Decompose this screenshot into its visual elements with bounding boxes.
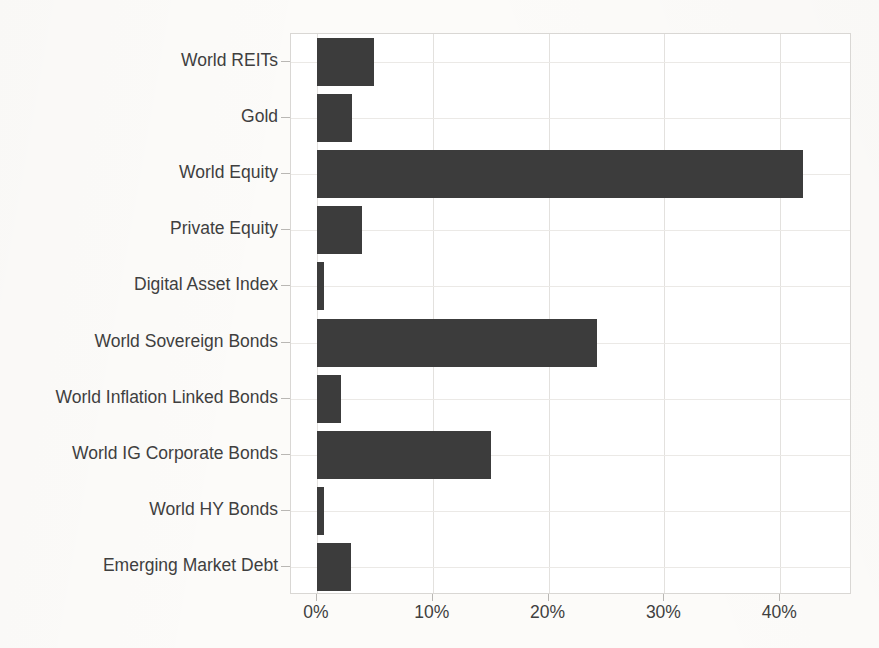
x-axis-tick-labels: 0%10%20%30%40%: [0, 604, 879, 634]
y-tick-label-emerging-market-debt: Emerging Market Debt: [0, 557, 278, 575]
y-tick-label-world-ig-corporate-bonds: World IG Corporate Bonds: [0, 445, 278, 463]
y-tick-label-world-inflation-linked-bonds: World Inflation Linked Bonds: [0, 389, 278, 407]
gridline-y: [291, 511, 850, 512]
y-axis-tick-labels: World REITsGoldWorld EquityPrivate Equit…: [0, 33, 278, 594]
y-tick-label-gold: Gold: [0, 108, 278, 126]
y-tick-mark: [281, 398, 290, 399]
bar-chart-figure: World REITsGoldWorld EquityPrivate Equit…: [0, 0, 879, 648]
bar-private-equity: [317, 206, 362, 254]
gridline-y: [291, 230, 850, 231]
plot-area: [290, 33, 851, 594]
bar-world-sovereign-bonds: [317, 319, 597, 367]
y-tick-mark: [281, 454, 290, 455]
x-tick-label-40pct: 40%: [762, 604, 797, 622]
x-tick-label-20pct: 20%: [530, 604, 565, 622]
gridline-y: [291, 118, 850, 119]
y-tick-mark: [281, 229, 290, 230]
bar-world-hy-bonds: [317, 487, 324, 535]
bar-world-equity: [317, 150, 803, 198]
y-tick-mark: [281, 510, 290, 511]
gridline-y: [291, 62, 850, 63]
bar-emerging-market-debt: [317, 543, 351, 591]
x-tick-label-0pct: 0%: [303, 604, 328, 622]
gridline-y: [291, 567, 850, 568]
y-tick-label-world-sovereign-bonds: World Sovereign Bonds: [0, 333, 278, 351]
x-tick-mark: [548, 594, 549, 601]
bar-world-reits: [317, 38, 374, 86]
y-tick-label-digital-asset-index: Digital Asset Index: [0, 276, 278, 294]
y-tick-mark: [281, 173, 290, 174]
x-tick-mark: [779, 594, 780, 601]
gridline-y: [291, 286, 850, 287]
y-tick-label-world-hy-bonds: World HY Bonds: [0, 501, 278, 519]
gridline-y: [291, 399, 850, 400]
y-tick-label-world-reits: World REITs: [0, 52, 278, 70]
y-tick-mark: [281, 117, 290, 118]
y-tick-mark: [281, 342, 290, 343]
y-tick-mark: [281, 566, 290, 567]
x-tick-mark: [316, 594, 317, 601]
y-tick-mark: [281, 285, 290, 286]
y-tick-mark: [281, 61, 290, 62]
bar-world-ig-corporate-bonds: [317, 431, 491, 479]
bar-digital-asset-index: [317, 262, 324, 310]
x-tick-label-10pct: 10%: [414, 604, 449, 622]
x-tick-label-30pct: 30%: [646, 604, 681, 622]
y-tick-label-world-equity: World Equity: [0, 164, 278, 182]
bar-gold: [317, 94, 352, 142]
x-tick-mark: [432, 594, 433, 601]
x-tick-mark: [663, 594, 664, 601]
bar-world-inflation-linked-bonds: [317, 375, 341, 423]
y-tick-label-private-equity: Private Equity: [0, 220, 278, 238]
